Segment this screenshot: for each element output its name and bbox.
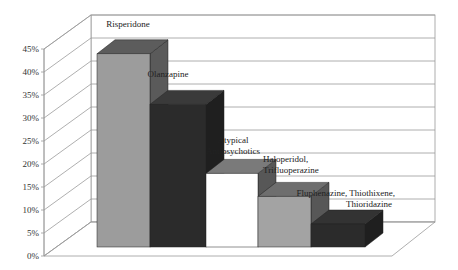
y-tick-label: 10% (23, 205, 40, 215)
data-label: Fluphenazine, Thiothixene, (296, 188, 395, 198)
y-tick-label: 35% (23, 90, 40, 100)
y-tick-label: 30% (23, 113, 40, 123)
y-tick-label: 0% (27, 251, 40, 261)
bar-4 (311, 210, 383, 247)
bar-chart-3d: 0%5%10%15%20%25%30%35%40%45% Risperidone… (0, 0, 458, 270)
y-tick-label: 45% (23, 44, 40, 54)
data-label: Thioridazine (346, 199, 392, 209)
data-label: Antipsychotics (206, 146, 260, 156)
y-tick-label: 15% (23, 182, 40, 192)
data-label: Atypical (218, 135, 249, 145)
y-axis: 0%5%10%15%20%25%30%35%40%45% (23, 44, 45, 261)
bar-front-face (258, 196, 311, 247)
bar-front-face (150, 104, 206, 247)
bar-front-face (97, 54, 150, 247)
data-label: Trifluoperazine (263, 165, 319, 175)
bar-front-face (311, 224, 365, 247)
y-tick-label: 40% (23, 67, 40, 77)
data-label: Haloperidol, (263, 154, 308, 164)
y-tick-label: 25% (23, 136, 40, 146)
bar-front-face (206, 173, 258, 247)
y-tick-label: 20% (23, 159, 40, 169)
data-label: Risperidone (106, 19, 150, 29)
data-label: Olanzapine (148, 69, 189, 79)
y-tick-label: 5% (27, 228, 40, 238)
